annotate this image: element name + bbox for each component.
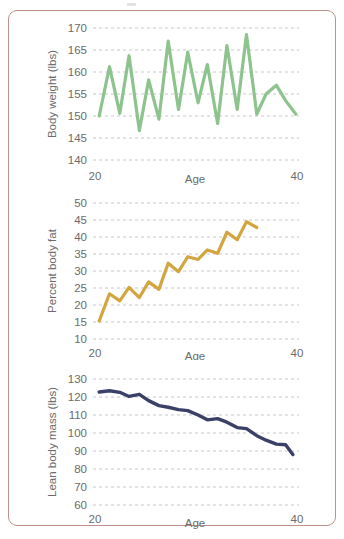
ytick-145: 145	[68, 132, 87, 144]
xtick-20: 20	[89, 170, 102, 182]
ytick-110: 110	[69, 409, 87, 421]
x-axis-label-lean-body-mass: Age	[185, 517, 205, 529]
ytick-140: 140	[68, 154, 87, 166]
lean-body-mass-chart-svg: 130 120 110 100 90 80 70 60 Lean body ma…	[9, 362, 337, 532]
chart-panel-body-weight: 170 165 160 155 150 145 140 Body weight …	[9, 13, 337, 188]
ytick-130: 130	[68, 373, 87, 385]
y-axis-label-percent-body-fat: Percent body fat	[46, 228, 58, 313]
ytick-20: 20	[74, 299, 87, 311]
ytick-155: 155	[68, 88, 87, 100]
ytick-160: 160	[68, 66, 87, 78]
ytick-45: 45	[74, 214, 87, 226]
ytick-15: 15	[74, 316, 87, 328]
x-axis-label-percent-body-fat: Age	[185, 350, 205, 360]
ytick-170: 170	[68, 22, 87, 34]
ytick-10: 10	[74, 333, 87, 345]
figure-frame: 170 165 160 155 150 145 140 Body weight …	[8, 10, 336, 526]
xtick-40: 40	[291, 347, 304, 359]
y-axis-label-lean-body-mass: Lean body mass (lbs)	[46, 387, 58, 497]
ytick-80: 80	[74, 463, 87, 475]
ytick-30: 30	[74, 265, 87, 277]
percent-body-fat-chart-svg: 50 45 40 35 30 25 20 15 10 Percent body …	[9, 185, 337, 360]
y-axis-label-body-weight: Body weight (lbs)	[46, 50, 58, 138]
y-axis-ticklabels-body-weight: 170 165 160 155 150 145 140	[68, 22, 87, 166]
xtick-20: 20	[89, 347, 102, 359]
ytick-100: 100	[68, 427, 87, 439]
xtick-40: 40	[291, 170, 304, 182]
ytick-165: 165	[68, 44, 87, 56]
ytick-90: 90	[74, 445, 87, 457]
x-axis-label-body-weight: Age	[185, 173, 205, 185]
chart-panel-percent-body-fat: 50 45 40 35 30 25 20 15 10 Percent body …	[9, 185, 337, 360]
ytick-50: 50	[74, 197, 87, 209]
y-axis-ticklabels-percent-body-fat: 50 45 40 35 30 25 20 15 10	[74, 197, 87, 345]
ytick-150: 150	[68, 110, 87, 122]
xtick-40: 40	[291, 513, 304, 525]
scan-artifact-speck	[127, 3, 136, 6]
ytick-60: 60	[74, 499, 87, 511]
body-weight-chart-svg: 170 165 160 155 150 145 140 Body weight …	[9, 13, 337, 188]
ytick-120: 120	[68, 391, 87, 403]
chart-panel-lean-body-mass: 130 120 110 100 90 80 70 60 Lean body ma…	[9, 362, 337, 532]
series-line-lean-body-mass	[99, 391, 293, 455]
ytick-70: 70	[74, 481, 87, 493]
xtick-20: 20	[89, 513, 102, 525]
gridlines-percent-body-fat	[93, 203, 299, 339]
y-axis-ticklabels-lean-body-mass: 130 120 110 100 90 80 70 60	[68, 373, 87, 511]
ytick-35: 35	[74, 248, 87, 260]
ytick-25: 25	[74, 282, 87, 294]
ytick-40: 40	[74, 231, 87, 243]
